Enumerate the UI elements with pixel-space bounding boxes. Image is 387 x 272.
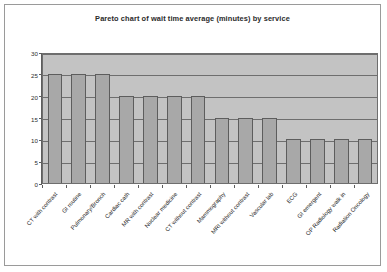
y-tick-label: 30 [31,50,38,57]
x-label-slot: GI routine [66,189,90,269]
x-label-slot: Vascular lab [258,189,282,269]
x-label-slot: CT without contrast [186,189,210,269]
bar[interactable] [71,74,86,183]
bar[interactable] [262,118,277,184]
x-label-slot: Pulmonary/Bronch [90,189,114,269]
x-label-slot: MRI without contrast [234,189,258,269]
bar-slot [138,54,162,183]
y-tick-label: 15 [31,115,38,122]
y-tick-label: 20 [31,93,38,100]
bar-slot [353,54,377,183]
x-label-slot: MR with contrast [138,189,162,269]
plot-area [42,53,378,184]
y-tick-label: 10 [31,137,38,144]
bar-slot [329,54,353,183]
bar-slot [115,54,139,183]
bar[interactable] [334,139,349,183]
bar[interactable] [119,96,134,183]
bar-slot [162,54,186,183]
bar-slot [91,54,115,183]
bar-slot [186,54,210,183]
x-label-slot: CT with contrast [42,189,66,269]
bar[interactable] [191,96,206,183]
bar-slot [282,54,306,183]
bar[interactable] [358,139,373,183]
x-tick-label: CT with contrast [26,191,59,227]
bar-series [43,54,377,183]
bar[interactable] [167,96,182,183]
bar-slot [305,54,329,183]
chart-card: Pareto chart of wait time average (minut… [4,4,381,266]
x-axis-labels: CT with contrastGI routinePulmonary/Bron… [42,189,378,269]
x-label-slot: Cardiac cath [114,189,138,269]
bar[interactable] [143,96,158,183]
bar[interactable] [215,118,230,184]
bar[interactable] [48,74,63,183]
bar[interactable] [310,139,325,183]
bar[interactable] [95,74,110,183]
bar-slot [210,54,234,183]
y-tick-label: 25 [31,71,38,78]
bar-slot [234,54,258,183]
x-tick-label: ECG [285,191,298,205]
y-tick-label: 5 [35,159,38,166]
x-label-slot: ECG [282,189,306,269]
chart-title: Pareto chart of wait time average (minut… [5,14,380,23]
bar-slot [258,54,282,183]
bar-slot [67,54,91,183]
bar[interactable] [286,139,301,183]
y-tick-label: 0 [35,181,38,188]
bar[interactable] [238,118,253,184]
y-axis: 051015202530 [25,53,42,184]
bar-slot [43,54,67,183]
x-label-slot: Radiation Oncology [354,189,378,269]
